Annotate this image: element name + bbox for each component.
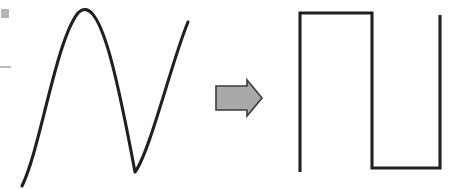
waveform-conversion-diagram [0, 0, 460, 189]
edge-mark-square-icon [1, 9, 9, 18]
edge-mark-dash-icon [0, 66, 11, 68]
diagram-canvas [0, 0, 460, 189]
